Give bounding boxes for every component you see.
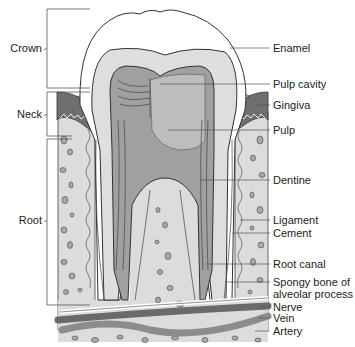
label-neck: Neck bbox=[2, 108, 42, 120]
label-root-canal: Root canal bbox=[273, 258, 326, 270]
label-pulp-cavity: Pulp cavity bbox=[273, 78, 326, 90]
label-artery: Artery bbox=[273, 325, 302, 337]
tooth-diagram: Crown Neck Root Enamel Pulp cavity Gingi… bbox=[0, 0, 355, 347]
label-spongy-bone: Spongy bone of bbox=[273, 276, 350, 288]
label-gingiva: Gingiva bbox=[273, 99, 310, 111]
label-dentine: Dentine bbox=[273, 174, 311, 186]
label-crown: Crown bbox=[2, 42, 42, 54]
label-ligament: Ligament bbox=[273, 214, 318, 226]
label-pulp: Pulp bbox=[273, 124, 295, 136]
label-enamel: Enamel bbox=[273, 42, 310, 54]
label-cement: Cement bbox=[273, 227, 312, 239]
label-root: Root bbox=[2, 214, 42, 226]
label-vein: Vein bbox=[273, 312, 294, 324]
label-alveolar-process: alveolar process bbox=[273, 288, 353, 300]
